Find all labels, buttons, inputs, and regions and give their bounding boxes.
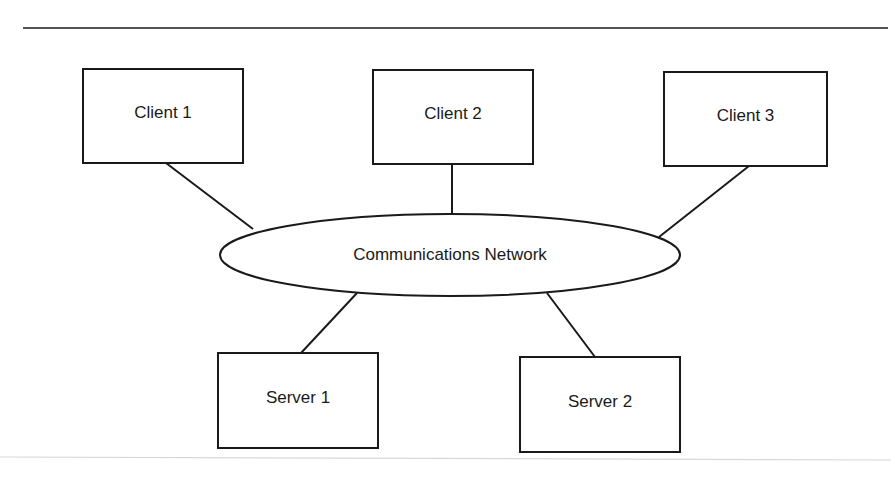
server-nodes: Server 1Server 2 xyxy=(218,353,680,452)
bottom-rule xyxy=(0,457,891,460)
client-node-2: Client 2 xyxy=(373,70,533,164)
server-label: Server 2 xyxy=(568,392,632,411)
link-line xyxy=(166,163,253,229)
link-line xyxy=(547,293,595,357)
server-node-1: Server 1 xyxy=(218,353,378,448)
server-node-2: Server 2 xyxy=(520,357,680,452)
client-server-diagram: Communications Network Client 1Client 2C… xyxy=(0,0,891,485)
link-line xyxy=(659,166,749,237)
client-label: Client 1 xyxy=(134,103,192,122)
server-label: Server 1 xyxy=(266,388,330,407)
client-node-3: Client 3 xyxy=(664,72,827,166)
client-node-1: Client 1 xyxy=(83,69,243,163)
network-label: Communications Network xyxy=(353,245,547,264)
network-node: Communications Network xyxy=(220,214,680,296)
client-label: Client 2 xyxy=(424,104,482,123)
link-line xyxy=(301,293,357,353)
client-label: Client 3 xyxy=(717,106,775,125)
client-nodes: Client 1Client 2Client 3 xyxy=(83,69,827,166)
